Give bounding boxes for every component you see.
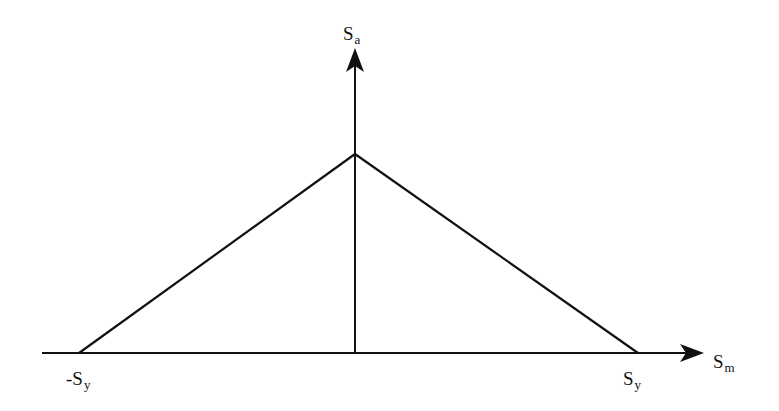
x-axis-label-subscript: m (725, 360, 735, 375)
stress-diagram (0, 0, 779, 411)
neg-yield-strength-label: -Sy (66, 369, 90, 388)
neg-yield-strength-base: -S (66, 368, 83, 389)
envelope-left-line (79, 154, 355, 353)
x-axis-label-base: S (713, 351, 724, 372)
x-axis-label: Sm (713, 352, 735, 371)
y-axis-label-subscript: a (355, 32, 361, 47)
yield-strength-subscript: y (635, 377, 642, 392)
neg-yield-strength-subscript: y (84, 377, 91, 392)
envelope-right-line (355, 154, 638, 353)
yield-strength-base: S (623, 368, 634, 389)
y-axis-label-base: S (343, 23, 354, 44)
yield-strength-label: Sy (623, 369, 641, 388)
y-axis-label: Sa (343, 24, 360, 43)
